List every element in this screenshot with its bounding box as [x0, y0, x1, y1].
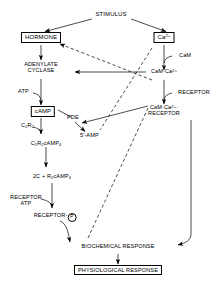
node-physiological-response: PHYSIOLOGICAL RESPONSE [74, 265, 162, 275]
node-cam-calcium: CaM·Ca2+ [151, 68, 177, 74]
adenylate-cyclase-line2: CYCLASE [24, 67, 58, 73]
ccr-l1-text: CaM·Ca [150, 104, 171, 110]
dis-tail: cAMP [53, 173, 68, 179]
calcium-label: Ca [158, 34, 166, 40]
cx-tail: cAMP [44, 140, 59, 146]
signal-transduction-diagram: STIMULUS HORMONE Ca2+ CaM ADENYLATE CYCL… [0, 0, 218, 287]
cam-calcium-receptor-line2: RECEPTOR [148, 110, 180, 116]
node-receptor-phosphate: RECEPTOR-P [34, 212, 77, 222]
node-pde: PDE [67, 114, 79, 120]
node-adenylate-cyclase: ADENYLATE CYCLASE [24, 61, 58, 74]
edge-long-feedback-dashed [88, 108, 148, 238]
node-receptor-right: RECEPTOR [178, 89, 210, 95]
ccr-l1-tail: · [176, 104, 178, 110]
edge-c2r2-to-complex [33, 127, 41, 133]
edge-calcium-feedback-dashed [100, 48, 152, 130]
node-camp: cAMP [31, 106, 55, 117]
node-biochemical-response: BIOCHEMICAL RESPONSE [82, 243, 155, 249]
cam-calcium-label: CaM·Ca [151, 68, 172, 74]
edge-stimulus-to-hormone [45, 19, 92, 32]
edge-receptor-complex-to-pde [82, 106, 148, 123]
edge-stimulus-to-calcium [131, 19, 166, 32]
node-atp: ATP [18, 88, 29, 94]
dis-sub2: 4 [69, 175, 71, 180]
node-5-amp: 5'-AMP [80, 132, 99, 138]
edge-receptor-to-receptor-complex [164, 93, 172, 100]
node-c2r2: C2R2 [21, 122, 34, 130]
node-cam-calcium-receptor: CaM·Ca2+· RECEPTOR [148, 104, 180, 117]
edge-receptor-atp-to-receptor-p [41, 199, 52, 206]
node-cam: CaM [179, 52, 191, 58]
cx-sub3: 4 [59, 142, 61, 147]
edge-pde-to-amp [75, 122, 85, 132]
dis-pre: 2C + R [33, 173, 51, 179]
node-hormone: HORMONE [21, 32, 61, 43]
node-calcium: Ca2+ [154, 32, 175, 43]
c2r2-sub2: 2 [32, 124, 34, 129]
node-c2r2-camp4: C2R2cAMP4 [31, 140, 62, 148]
edge-receptor-p-to-biochemical [60, 221, 70, 242]
calcium-charge: 2+ [165, 33, 170, 38]
edge-cam-to-cam-calcium [164, 56, 172, 63]
receptor-atp-line2: ATP [10, 200, 42, 206]
cam-calcium-charge: 2+ [172, 68, 177, 73]
phosphate-icon: P [67, 213, 76, 222]
node-stimulus: STIMULUS [95, 11, 126, 18]
receptor-p-label: RECEPTOR- [34, 212, 68, 218]
edge-receptor-complex-to-biochemical [178, 120, 191, 245]
node-receptor-atp: RECEPTOR ATP [10, 194, 42, 207]
edge-feedback-to-hormone-dashed [60, 44, 152, 80]
edge-atp-to-camp [33, 93, 41, 101]
node-dissociated-subunits: 2C + R2cAMP4 [33, 173, 71, 181]
